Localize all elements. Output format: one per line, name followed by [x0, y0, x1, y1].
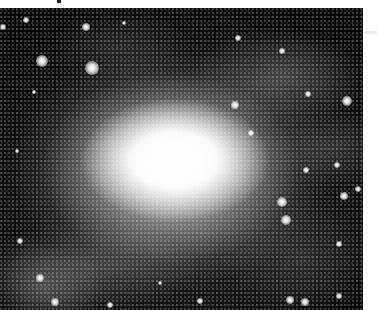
star: [107, 302, 113, 308]
star: [286, 296, 294, 304]
star: [85, 61, 99, 75]
star: [158, 281, 162, 285]
star: [336, 293, 342, 299]
star: [340, 192, 348, 200]
star: [303, 167, 309, 173]
star: [279, 48, 285, 54]
star: [235, 35, 241, 41]
star: [122, 21, 126, 25]
star: [305, 91, 311, 97]
top-edge-mark: [57, 0, 61, 3]
star: [17, 238, 23, 244]
star: [301, 298, 309, 306]
star: [15, 149, 19, 153]
star: [334, 162, 340, 168]
star: [0, 24, 6, 30]
star: [277, 197, 287, 207]
star: [197, 298, 203, 304]
star: [36, 55, 48, 67]
star: [51, 298, 59, 306]
star: [82, 23, 90, 31]
star: [336, 241, 342, 247]
star: [281, 215, 291, 225]
right-edge-line: [364, 31, 377, 34]
galaxy-photo: [0, 8, 363, 310]
bright-stars: [0, 8, 363, 310]
star: [23, 17, 29, 23]
star: [355, 186, 361, 192]
star: [36, 274, 44, 282]
star: [248, 130, 254, 136]
star: [342, 96, 352, 106]
star: [231, 101, 239, 109]
star: [32, 90, 36, 94]
